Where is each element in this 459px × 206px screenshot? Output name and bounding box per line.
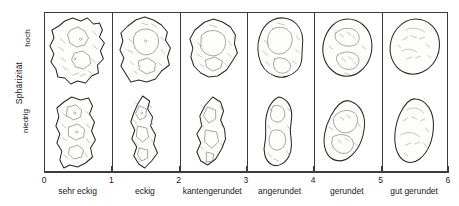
x-tick-mark bbox=[44, 166, 45, 173]
grain-cell-very-angular-low bbox=[45, 93, 112, 173]
x-tick-label-2: 2 bbox=[169, 175, 189, 185]
grain-cell-subrounded-high bbox=[247, 13, 314, 93]
grain-cell-subrounded-low bbox=[247, 93, 314, 173]
x-tick-label-0: 0 bbox=[34, 175, 54, 185]
grain-cell-well-rounded-high bbox=[382, 13, 449, 93]
x-tick-mark bbox=[246, 166, 247, 173]
x-tick-mark bbox=[313, 166, 314, 173]
y-tick-label-high: hoch bbox=[23, 10, 35, 66]
x-tick-mark bbox=[111, 166, 112, 173]
x-tick-mark bbox=[381, 166, 382, 173]
x-tick-label-4: 4 bbox=[303, 175, 323, 185]
grain-cell-very-angular-high bbox=[45, 13, 112, 93]
grain-cell-subangular-high bbox=[180, 13, 247, 93]
grain-cell-angular-high bbox=[112, 13, 179, 93]
grain-cell-subangular-low bbox=[180, 93, 247, 173]
x-tick-mark bbox=[448, 166, 449, 173]
grain-cell-well-rounded-low bbox=[382, 93, 449, 173]
x-tick-label-1: 1 bbox=[101, 175, 121, 185]
x-tick-label-6: 6 bbox=[438, 175, 458, 185]
grain-cell-angular-low bbox=[112, 93, 179, 173]
y-tick-label-low: niedrig bbox=[21, 93, 33, 149]
x-tick-mark bbox=[179, 166, 180, 173]
roundness-sphericity-chart: Sphärizität hoch niedrig bbox=[0, 0, 459, 206]
grain-cell-rounded-high bbox=[314, 13, 381, 93]
x-tick-label-3: 3 bbox=[236, 175, 256, 185]
x-category-label-gut-gerundet: gut gerundet bbox=[369, 186, 459, 196]
plot-area bbox=[44, 12, 448, 172]
x-tick-label-5: 5 bbox=[371, 175, 391, 185]
grain-cell-rounded-low bbox=[314, 93, 381, 173]
